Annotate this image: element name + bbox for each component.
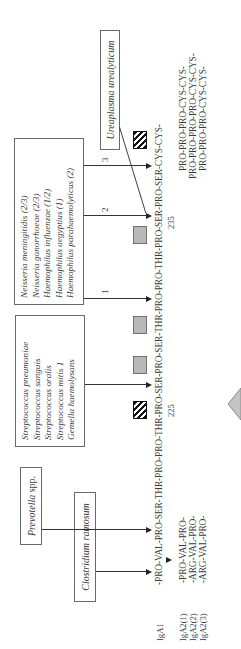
neisseria-line: Haemophilus influenzae (1/2)	[42, 139, 54, 298]
cleavage-label-2: 2	[100, 208, 110, 213]
position-225: 225	[166, 404, 176, 417]
cleavage-arrow-2	[84, 215, 146, 216]
neisseria-line: Neisseria gonorrhoeae (2/3)	[31, 139, 43, 298]
iga2-3-start: -ARG-VAL-PRO-	[198, 516, 208, 583]
neisseria-line: Haemophilus parahaemolyticus (2)	[65, 139, 77, 298]
arrowhead-icon	[146, 163, 152, 169]
arrowhead-icon	[146, 382, 152, 388]
partial-gray-shape	[210, 384, 241, 424]
arrowhead-icon	[146, 213, 152, 219]
hatched-marker	[133, 401, 147, 419]
strep-line: Streptococcus sanguis	[32, 316, 44, 440]
streptococcus-box: Streptococcus pneumoniae Streptococcus s…	[15, 315, 85, 447]
gray-marker	[133, 226, 147, 244]
cleavage-arrow-3	[84, 165, 146, 166]
clostridium-box: Clostridium ramosum	[74, 492, 96, 602]
prevotella-suffix: spp.	[26, 476, 37, 495]
position-235: 235	[166, 216, 176, 229]
neisseria-haemophilus-box: Neisseria meningitidis (2/3) Neisseria g…	[14, 138, 84, 305]
strep-line: Streptococcus oralis	[43, 316, 55, 440]
iga2-3-label: IgA2(3)	[198, 613, 208, 641]
deletion-arrowhead-icon	[166, 557, 172, 563]
iga1-label: IgA1	[155, 623, 165, 641]
iga2-1-start: -PRO-VAL-PRO-	[178, 517, 188, 583]
iga2-2-start: -ARG-VAL-PRO-	[188, 516, 198, 583]
iga2-3-end: PRO-PRO-PRO-CYS-CYS-	[198, 66, 208, 171]
ureaplasma-box: Ureaplasma urealyticum	[100, 30, 120, 150]
strep-line: Streptococcus pneumoniae	[20, 316, 32, 440]
iga1-sequence: -PRO-VAL-PRO-SER-THR-PRO-PRO-THR-PRO-SER…	[154, 124, 164, 585]
arrowhead-icon	[146, 296, 152, 302]
hatched-marker	[133, 131, 147, 149]
strep-line: Gemella haemolysans	[66, 316, 78, 440]
arrowhead-icon	[146, 569, 152, 575]
prevotella-species: Prevotella	[26, 495, 37, 536]
clostridium-label: Clostridium ramosum	[80, 503, 91, 591]
prevotella-box: Prevotella spp.	[20, 467, 42, 545]
streptococcus-arrow	[85, 384, 146, 385]
gray-marker	[133, 356, 147, 374]
ureaplasma-label: Ureaplasma urealyticum	[105, 41, 116, 140]
clostridium-arrow	[96, 571, 146, 572]
neisseria-line: Haemophilus aegyptius (1)	[54, 139, 66, 298]
iga1-protease-cleavage-diagram: Prevotella spp. Clostridium ramosum Stre…	[0, 0, 241, 649]
arrowhead-icon	[146, 527, 152, 533]
cleavage-arrow-1	[84, 298, 146, 299]
iga2-2-end: PRO-PRO-PRO-PRO-CYS-CYS-	[188, 53, 198, 179]
prevotella-arrow	[42, 529, 146, 530]
cleavage-label-3: 3	[100, 158, 110, 163]
iga2-1-end: PRO-PRO-PRO-CYS-CYS-	[178, 66, 188, 171]
prevotella-label: Prevotella spp.	[26, 476, 37, 536]
gray-marker	[133, 316, 147, 334]
neisseria-line: Neisseria meningitidis (2/3)	[19, 139, 31, 298]
iga2-2-label: IgA2(2)	[188, 613, 198, 641]
iga2-1-label: IgA2(1)	[178, 613, 188, 641]
cleavage-label-1: 1	[100, 290, 110, 295]
strep-line: Streptococcus mitis 1	[55, 316, 67, 440]
